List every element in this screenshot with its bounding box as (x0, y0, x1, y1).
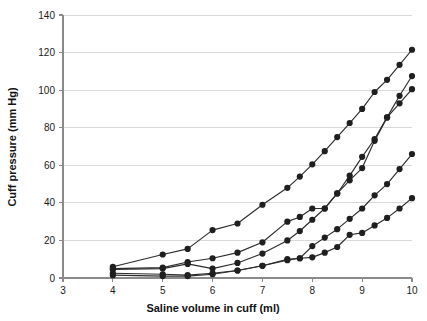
data-point (347, 232, 353, 238)
data-point (372, 136, 378, 142)
data-point (160, 273, 166, 279)
data-point (234, 250, 240, 256)
data-point (284, 237, 290, 243)
y-tick-label-60: 60 (44, 160, 56, 171)
data-point (359, 230, 365, 236)
data-point (409, 151, 415, 157)
x-tick-label-6: 6 (210, 285, 216, 296)
x-tick-label-5: 5 (160, 285, 166, 296)
data-point (359, 106, 365, 112)
data-point (384, 215, 390, 221)
data-point (259, 263, 265, 269)
data-point (322, 205, 328, 211)
data-point (209, 255, 215, 261)
y-tick-label-20: 20 (44, 235, 56, 246)
data-point (409, 195, 415, 201)
y-tick-label-140: 140 (38, 10, 55, 21)
data-point (372, 192, 378, 198)
data-point (160, 251, 166, 257)
axes-group (63, 15, 412, 278)
data-point (384, 77, 390, 83)
data-point (297, 228, 303, 234)
x-tick-label-7: 7 (260, 285, 266, 296)
series-line-cuff-4 (113, 154, 412, 275)
data-point (234, 220, 240, 226)
data-point (185, 261, 191, 267)
data-point (409, 47, 415, 53)
data-point (347, 120, 353, 126)
x-tick-label-8: 8 (310, 285, 316, 296)
chart-figure: 020406080100120140 345678910 Saline volu… (0, 0, 427, 321)
series-markers-group (110, 47, 415, 280)
data-point (309, 217, 315, 223)
data-point (259, 250, 265, 256)
data-point (284, 219, 290, 225)
x-tick-labels-group: 345678910 (60, 285, 418, 296)
data-point (334, 134, 340, 140)
data-point (347, 216, 353, 222)
data-point (284, 256, 290, 262)
data-point (185, 273, 191, 279)
data-point (334, 244, 340, 250)
data-point (359, 205, 365, 211)
data-point (359, 154, 365, 160)
data-point (309, 254, 315, 260)
gridlines-group (63, 15, 412, 240)
y-tick-label-40: 40 (44, 197, 56, 208)
data-point (297, 214, 303, 220)
data-point (334, 190, 340, 196)
cuff-pressure-line-chart: 020406080100120140 345678910 Saline volu… (0, 0, 427, 321)
tick-marks-group (59, 15, 412, 282)
data-point (384, 114, 390, 120)
data-point (409, 86, 415, 92)
data-point (384, 181, 390, 187)
data-point (234, 267, 240, 273)
data-point (284, 185, 290, 191)
data-point (334, 226, 340, 232)
x-tick-label-4: 4 (110, 285, 116, 296)
y-tick-label-120: 120 (38, 47, 55, 58)
data-point (322, 250, 328, 256)
data-point (396, 93, 402, 99)
data-point (396, 100, 402, 106)
data-point (322, 235, 328, 241)
data-point (297, 173, 303, 179)
data-point (309, 243, 315, 249)
data-point (322, 148, 328, 154)
x-tick-label-9: 9 (359, 285, 365, 296)
data-point (372, 222, 378, 228)
data-point (396, 205, 402, 211)
y-axis-title: Cuff pressure (mm Hg) (6, 87, 18, 207)
data-point (347, 173, 353, 179)
data-point (259, 239, 265, 245)
y-tick-label-100: 100 (38, 85, 55, 96)
data-point (234, 260, 240, 266)
y-tick-label-0: 0 (49, 273, 55, 284)
x-axis-title: Saline volume in cuff (ml) (146, 302, 280, 314)
data-point (110, 272, 116, 278)
data-point (396, 166, 402, 172)
data-point (309, 205, 315, 211)
data-point (160, 266, 166, 272)
data-point (359, 165, 365, 171)
y-tick-labels-group: 020406080100120140 (38, 10, 55, 284)
data-point (396, 62, 402, 68)
data-point (372, 89, 378, 95)
data-point (185, 246, 191, 252)
x-tick-label-3: 3 (60, 285, 66, 296)
y-tick-label-80: 80 (44, 122, 56, 133)
x-tick-label-10: 10 (406, 285, 418, 296)
data-point (209, 227, 215, 233)
data-point (259, 202, 265, 208)
data-point (309, 161, 315, 167)
data-point (297, 255, 303, 261)
data-point (409, 73, 415, 79)
data-point (209, 271, 215, 277)
